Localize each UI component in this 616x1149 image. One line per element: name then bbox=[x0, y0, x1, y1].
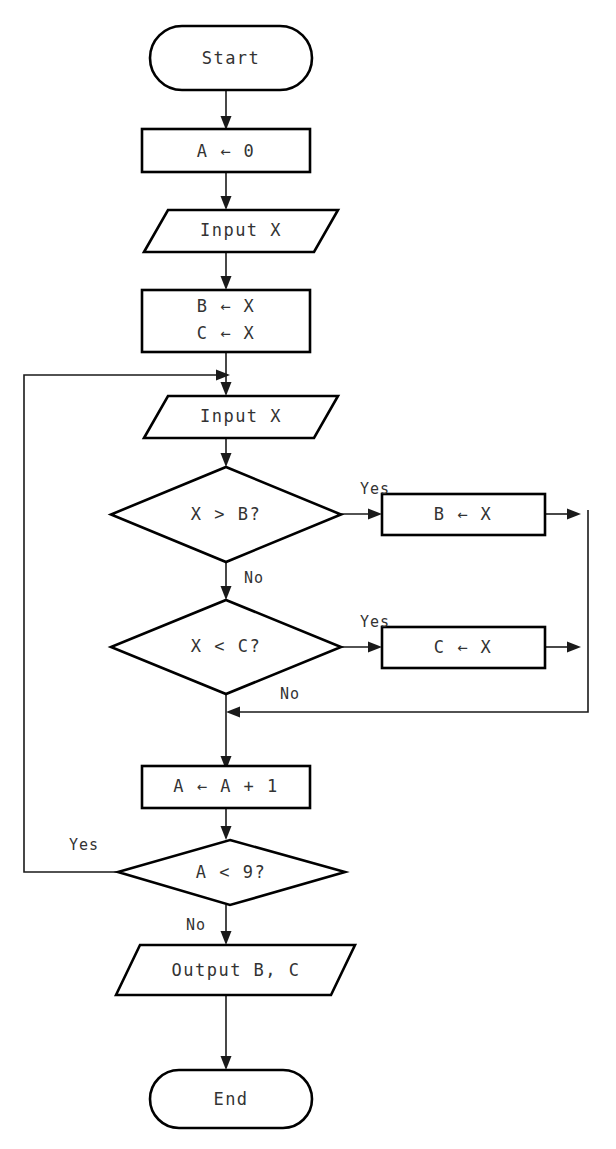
edge-input1-to-init-bc bbox=[221, 252, 232, 290]
edge-incr-a-to-cond-a9 bbox=[221, 808, 232, 840]
node-set-b-label: B ← X bbox=[434, 504, 493, 524]
node-init-bc[interactable]: B ← X C ← X bbox=[142, 290, 310, 352]
node-cond-xc-label: X < C? bbox=[191, 636, 261, 656]
node-init-a[interactable]: A ← 0 bbox=[142, 129, 310, 172]
node-start-label: Start bbox=[202, 48, 261, 68]
node-cond-xb[interactable]: X > B? bbox=[111, 467, 341, 562]
edge-label-a9-yes: Yes bbox=[69, 836, 99, 854]
edge-label-xc-no: No bbox=[280, 685, 300, 703]
node-cond-xc[interactable]: X < C? bbox=[111, 600, 341, 694]
flowchart-svg: Start A ← 0 Input X B ← X C ← X Input X … bbox=[0, 0, 616, 1149]
node-end[interactable]: End bbox=[150, 1070, 312, 1128]
edge-label-xc-yes: Yes bbox=[360, 613, 390, 631]
edge-cond-xb-no bbox=[221, 562, 232, 600]
node-input1-label: Input X bbox=[200, 220, 282, 240]
node-cond-xb-label: X > B? bbox=[191, 504, 261, 524]
node-set-c-label: C ← X bbox=[434, 637, 493, 657]
node-input2-label: Input X bbox=[200, 406, 282, 426]
flowchart-canvas: Start A ← 0 Input X B ← X C ← X Input X … bbox=[0, 0, 616, 1149]
edge-cond-xc-no bbox=[221, 695, 232, 770]
edge-cond-xb-yes bbox=[341, 509, 382, 520]
node-init-a-label: A ← 0 bbox=[197, 141, 256, 161]
node-init-bc-line2: C ← X bbox=[197, 323, 256, 343]
edge-label-xb-yes: Yes bbox=[360, 480, 390, 498]
node-output-label: Output B, C bbox=[171, 960, 300, 980]
node-end-label: End bbox=[213, 1089, 248, 1109]
node-incr-a[interactable]: A ← A + 1 bbox=[142, 766, 310, 808]
edge-label-xb-no: No bbox=[244, 569, 264, 587]
edge-cond-a9-no bbox=[221, 905, 232, 945]
node-incr-a-label: A ← A + 1 bbox=[173, 776, 279, 796]
edge-start-to-init-a bbox=[221, 90, 232, 130]
node-cond-a9-label: A < 9? bbox=[196, 862, 266, 882]
node-input1[interactable]: Input X bbox=[144, 210, 338, 252]
edge-init-a-to-input1 bbox=[221, 172, 232, 210]
node-start[interactable]: Start bbox=[150, 26, 312, 90]
edge-label-a9-no: No bbox=[186, 916, 206, 934]
edge-output-to-end bbox=[221, 995, 232, 1070]
node-set-b[interactable]: B ← X bbox=[382, 494, 545, 535]
node-init-bc-line1: B ← X bbox=[197, 296, 256, 316]
edge-set-c-to-rail bbox=[545, 642, 581, 653]
node-cond-a9[interactable]: A < 9? bbox=[118, 840, 345, 905]
node-input2[interactable]: Input X bbox=[144, 396, 338, 438]
edge-input2-to-cond-xb bbox=[221, 438, 232, 467]
edge-cond-xc-yes bbox=[341, 642, 382, 653]
edge-set-b-to-rail bbox=[545, 509, 581, 520]
node-output[interactable]: Output B, C bbox=[116, 945, 355, 995]
node-set-c[interactable]: C ← X bbox=[382, 627, 545, 668]
